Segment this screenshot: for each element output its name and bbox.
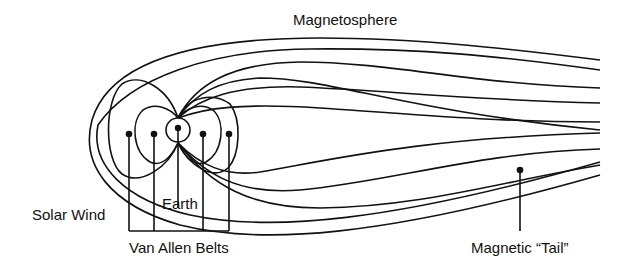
label-magnetosphere: Magnetosphere bbox=[293, 12, 397, 27]
field-line-tail-3 bbox=[178, 106, 600, 122]
van-allen-bracket bbox=[129, 134, 229, 231]
magnetosphere-diagram bbox=[0, 0, 632, 277]
label-magnetic-tail: Magnetic “Tail” bbox=[471, 240, 569, 255]
field-line-tail-4 bbox=[178, 78, 600, 130]
label-solar-wind: Solar Wind bbox=[32, 207, 105, 222]
label-van-allen-belts: Van Allen Belts bbox=[129, 240, 229, 255]
label-earth: Earth bbox=[162, 196, 198, 211]
